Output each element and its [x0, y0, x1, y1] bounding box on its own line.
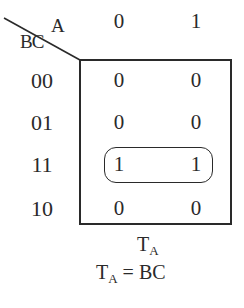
column-header-1: 1: [181, 11, 211, 32]
equation-lhs-sub: A: [108, 271, 117, 286]
equation-operator: =: [123, 261, 134, 283]
row-header-00: 00: [22, 70, 62, 92]
cell-01-1: 0: [181, 112, 211, 133]
row-header-11: 11: [22, 154, 62, 176]
row-header-01: 01: [22, 112, 62, 134]
cell-00-1: 0: [181, 70, 211, 91]
cell-10-0: 0: [104, 198, 134, 219]
cell-00-0: 0: [104, 70, 134, 91]
cell-01-0: 0: [104, 112, 134, 133]
map-label-sub: A: [149, 243, 158, 258]
map-label-base: T: [137, 233, 149, 255]
cell-10-1: 0: [181, 198, 211, 219]
column-variable-label: A: [51, 16, 65, 35]
row-variable-label: BC: [20, 32, 43, 51]
row-header-10: 10: [22, 198, 62, 220]
column-header-0: 0: [104, 11, 134, 32]
grouping-loop: [104, 147, 213, 183]
equation-rhs: BC: [139, 261, 166, 283]
equation-lhs-base: T: [96, 261, 108, 283]
map-label: TA: [137, 234, 159, 257]
equation: TA = BC: [96, 262, 166, 285]
